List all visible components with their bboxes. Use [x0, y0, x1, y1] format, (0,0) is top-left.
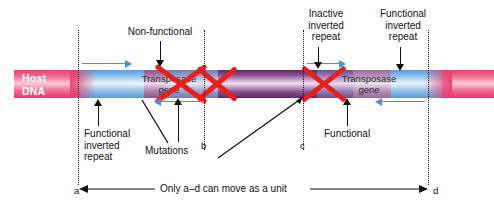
label-functional-right: Functional — [324, 128, 370, 140]
label-functional-repeat-line3: repeat — [372, 31, 434, 43]
label-functional-repeat-line1: Functional — [372, 8, 434, 20]
leader-long-diagonal — [218, 98, 302, 158]
label-functional-inverted-repeat-left: Functional inverted repeat — [84, 128, 154, 163]
label-non-functional: Non-functional — [105, 26, 215, 38]
label-functional-repeat-left-line3: repeat — [84, 151, 154, 163]
leader-long-diagonal-tip — [296, 96, 303, 104]
span-arrow-right — [419, 185, 428, 193]
label-mutations: Mutations — [145, 145, 188, 157]
label-inactive-inverted-repeat: Inactive inverted repeat — [296, 8, 356, 43]
label-inactive-line2: inverted — [296, 20, 356, 32]
label-inactive-line3: repeat — [296, 31, 356, 43]
label-functional-inverted-repeat: Functional inverted repeat — [372, 8, 434, 43]
label-functional-repeat-left-line2: inverted — [84, 140, 154, 152]
label-functional-repeat-line2: inverted — [372, 20, 434, 32]
label-inactive-line1: Inactive — [296, 8, 356, 20]
bottom-caption: Only a–d can move as a unit — [160, 183, 287, 195]
span-arrow-left — [79, 185, 88, 193]
label-functional-repeat-left-line1: Functional — [84, 128, 154, 140]
